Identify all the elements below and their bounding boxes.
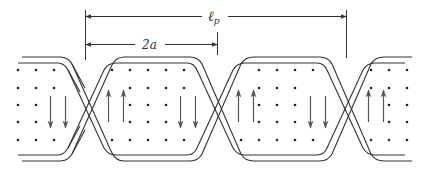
strand-a-2 <box>241 57 412 161</box>
magnetization-arrows <box>51 90 384 128</box>
strand-c-1 <box>72 57 241 154</box>
width-label: 2a <box>141 38 157 52</box>
ribbon-outline <box>18 57 412 161</box>
strand-a-1 <box>72 64 241 161</box>
strand-c-2 <box>241 57 412 161</box>
ribbon-bot-inner-0 <box>18 126 80 155</box>
period-label: ℓp <box>208 8 220 26</box>
twisted-ribbon-diagram: ℓp 2a <box>0 0 430 174</box>
strand-b-1 <box>68 70 233 155</box>
ribbon-top-inner-0 <box>18 63 80 92</box>
strand-d-1 <box>68 63 233 148</box>
